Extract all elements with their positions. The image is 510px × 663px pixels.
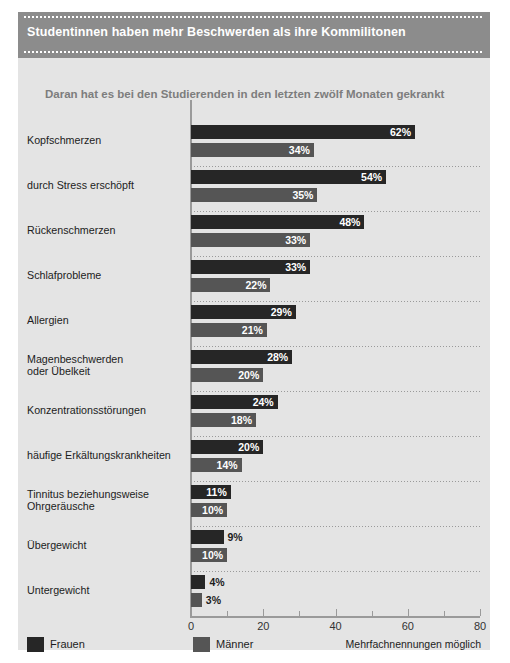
group-separator-8: [191, 526, 480, 527]
bar-frauen-8: 11%: [191, 485, 231, 499]
category-label-line: Tinnitus beziehungsweise: [27, 488, 185, 501]
bar-value-label: 29%: [271, 305, 292, 319]
bar-frauen-5: 28%: [191, 350, 292, 364]
category-label-0: Kopfschmerzen: [27, 134, 185, 147]
bar-value-label: 22%: [245, 278, 266, 292]
category-label-4: Allergien: [27, 314, 185, 327]
x-tick-minor-70: [444, 611, 445, 616]
group-separator-6: [191, 436, 480, 437]
x-tick-60: [408, 609, 409, 616]
bar-value-label: 20%: [238, 440, 259, 454]
category-label-line: Schlafprobleme: [27, 269, 185, 282]
bar-value-label: 18%: [231, 413, 252, 427]
x-tick-label-60: 60: [402, 620, 414, 632]
bar-frauen-7: 20%: [191, 440, 263, 454]
x-tick-40: [336, 609, 337, 616]
bar-value-label: 28%: [267, 350, 288, 364]
group-separator-9: [191, 571, 480, 572]
bar-value-label: 54%: [361, 170, 382, 184]
category-label-1: durch Stress erschöpft: [27, 179, 185, 192]
group-separator-3: [191, 301, 480, 302]
group-separator-7: [191, 481, 480, 482]
group-separator-2: [191, 256, 480, 257]
bar-frauen-10: [191, 575, 205, 589]
legend-swatch-frauen: [27, 637, 44, 652]
bar-value-label: 24%: [253, 395, 274, 409]
bar-maenner-5: 20%: [191, 368, 263, 382]
category-label-10: Untergewicht: [27, 584, 185, 597]
bar-frauen-0: 62%: [191, 125, 415, 139]
x-axis-line: [190, 616, 480, 618]
bar-frauen-1: 54%: [191, 170, 386, 184]
category-label-7: häufige Erkältungskrankheiten: [27, 449, 185, 462]
bar-maenner-2: 33%: [191, 233, 310, 247]
bar-maenner-6: 18%: [191, 413, 256, 427]
bar-frauen-2: 48%: [191, 215, 364, 229]
category-label-8: Tinnitus beziehungsweiseOhrgeräusche: [27, 488, 185, 513]
x-tick-80: [480, 609, 481, 616]
x-tick-20: [263, 609, 264, 616]
category-label-line: durch Stress erschöpft: [27, 179, 185, 192]
bar-maenner-0: 34%: [191, 143, 314, 157]
chart-note: Mehrfachnennungen möglich: [346, 637, 481, 652]
bar-value-label: 10%: [202, 503, 223, 517]
category-label-line: Kopfschmerzen: [27, 134, 185, 147]
bar-value-label: 10%: [202, 548, 223, 562]
bar-maenner-1: 35%: [191, 188, 317, 202]
category-label-line: oder Übelkeit: [27, 365, 185, 378]
bar-frauen-4: 29%: [191, 305, 296, 319]
bar-maenner-8: 10%: [191, 503, 227, 517]
x-tick-0: [191, 609, 192, 616]
x-tick-label-40: 40: [329, 620, 341, 632]
group-separator-4: [191, 346, 480, 347]
category-label-3: Schlafprobleme: [27, 269, 185, 282]
bar-value-label: 34%: [289, 143, 310, 157]
x-tick-minor-10: [227, 611, 228, 616]
bar-value-label: 20%: [238, 368, 259, 382]
category-label-9: Übergewicht: [27, 539, 185, 552]
group-separator-0: [191, 166, 480, 167]
category-label-line: Magenbeschwerden: [27, 353, 185, 366]
category-label-line: Konzentrationsstörungen: [27, 404, 185, 417]
bar-value-label: 4%: [209, 575, 224, 589]
bar-maenner-7: 14%: [191, 458, 242, 472]
bar-maenner-10: [191, 593, 202, 607]
legend-label-frauen: Frauen: [50, 637, 85, 652]
category-label-line: Untergewicht: [27, 584, 185, 597]
x-tick-label-20: 20: [257, 620, 269, 632]
bar-value-label: 9%: [228, 530, 243, 544]
category-label-line: Ohrgeräusche: [27, 500, 185, 513]
category-label-line: Übergewicht: [27, 539, 185, 552]
bar-value-label: 33%: [285, 260, 306, 274]
group-separator-1: [191, 211, 480, 212]
bar-maenner-3: 22%: [191, 278, 270, 292]
bar-value-label: 21%: [242, 323, 263, 337]
bar-value-label: 62%: [390, 125, 411, 139]
bar-frauen-6: 24%: [191, 395, 278, 409]
bar-maenner-4: 21%: [191, 323, 267, 337]
x-tick-label-0: 0: [188, 620, 194, 632]
bar-maenner-9: 10%: [191, 548, 227, 562]
bar-value-label: 14%: [217, 458, 238, 472]
bar-frauen-3: 33%: [191, 260, 310, 274]
legend-label-maenner: Männer: [216, 637, 253, 652]
group-separator-5: [191, 391, 480, 392]
bar-value-label: 3%: [206, 593, 221, 607]
category-label-line: häufige Erkältungskrankheiten: [27, 449, 185, 462]
bar-value-label: 48%: [339, 215, 360, 229]
bar-frauen-9: [191, 530, 224, 544]
x-tick-minor-50: [372, 611, 373, 616]
x-tick-minor-30: [299, 611, 300, 616]
bar-value-label: 35%: [292, 188, 313, 202]
bar-value-label: 11%: [206, 485, 226, 499]
category-label-line: Rückenschmerzen: [27, 224, 185, 237]
category-label-5: Magenbeschwerdenoder Übelkeit: [27, 353, 185, 378]
bar-value-label: 33%: [285, 233, 306, 247]
plot-area: 020406080 62%34%Kopfschmerzen54%35%durch…: [18, 12, 490, 650]
category-label-line: Allergien: [27, 314, 185, 327]
category-label-6: Konzentrationsstörungen: [27, 404, 185, 417]
x-tick-label-80: 80: [474, 620, 486, 632]
legend-swatch-maenner: [193, 637, 210, 652]
chart-legend: Frauen Männer Mehrfachnennungen möglich: [18, 636, 490, 658]
category-label-2: Rückenschmerzen: [27, 224, 185, 237]
